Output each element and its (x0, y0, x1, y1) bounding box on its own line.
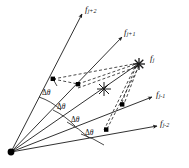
angular-fan-diagram: fj+2 fj+1 fj fj-1 fj-2 Δθ Δθ Δθ Δθ (0, 0, 189, 168)
angle-label-4: Δθ (85, 129, 94, 137)
ray-label-jm1: fj-1 (156, 90, 165, 99)
star-marker-fj (133, 58, 145, 70)
dash-fj-to-jm2 (107, 66, 139, 129)
diagram-canvas (0, 0, 189, 168)
ray-jm1-line (11, 97, 152, 152)
ray-label-j: fj (150, 54, 154, 63)
node-on-ray-jp1 (76, 82, 80, 86)
angle-label-1: Δθ (42, 89, 51, 97)
node-on-ray-jp2 (51, 77, 55, 81)
angle-label-2-theta: θ (62, 102, 66, 111)
node-group (8, 77, 125, 156)
node-on-ray-jm1 (120, 102, 124, 106)
angle-label-4-theta: θ (90, 128, 94, 137)
angle-label-1-theta: θ (47, 88, 51, 97)
ray-label-jm2: fj-2 (160, 119, 169, 128)
ray-label-jp2-sub: j+2 (88, 8, 97, 14)
star-marker-group (97, 58, 145, 96)
ray-label-jp2: fj+2 (85, 5, 96, 14)
ray-j-line (11, 62, 141, 152)
ray-label-jm1-sub: j-1 (159, 93, 166, 99)
dash-jp2-to-jp1 (53, 79, 78, 84)
dash-jp2-to-fj (53, 63, 139, 79)
dashed-connector-group (53, 63, 139, 130)
star-marker-center (97, 82, 111, 96)
ray-label-jm2-sub: j-2 (163, 122, 170, 128)
angle-label-2: Δθ (57, 103, 66, 111)
angle-label-3: Δθ (71, 116, 80, 124)
ray-label-jp1-sub: j+1 (127, 31, 136, 37)
ray-label-j-sub: j (153, 57, 155, 63)
ray-label-jp1: fj+1 (124, 28, 135, 37)
ray-jp2-line (11, 14, 82, 152)
node-on-ray-jm2 (104, 127, 108, 131)
angle-label-3-theta: θ (76, 115, 80, 124)
origin-vertex-dot (8, 149, 15, 156)
